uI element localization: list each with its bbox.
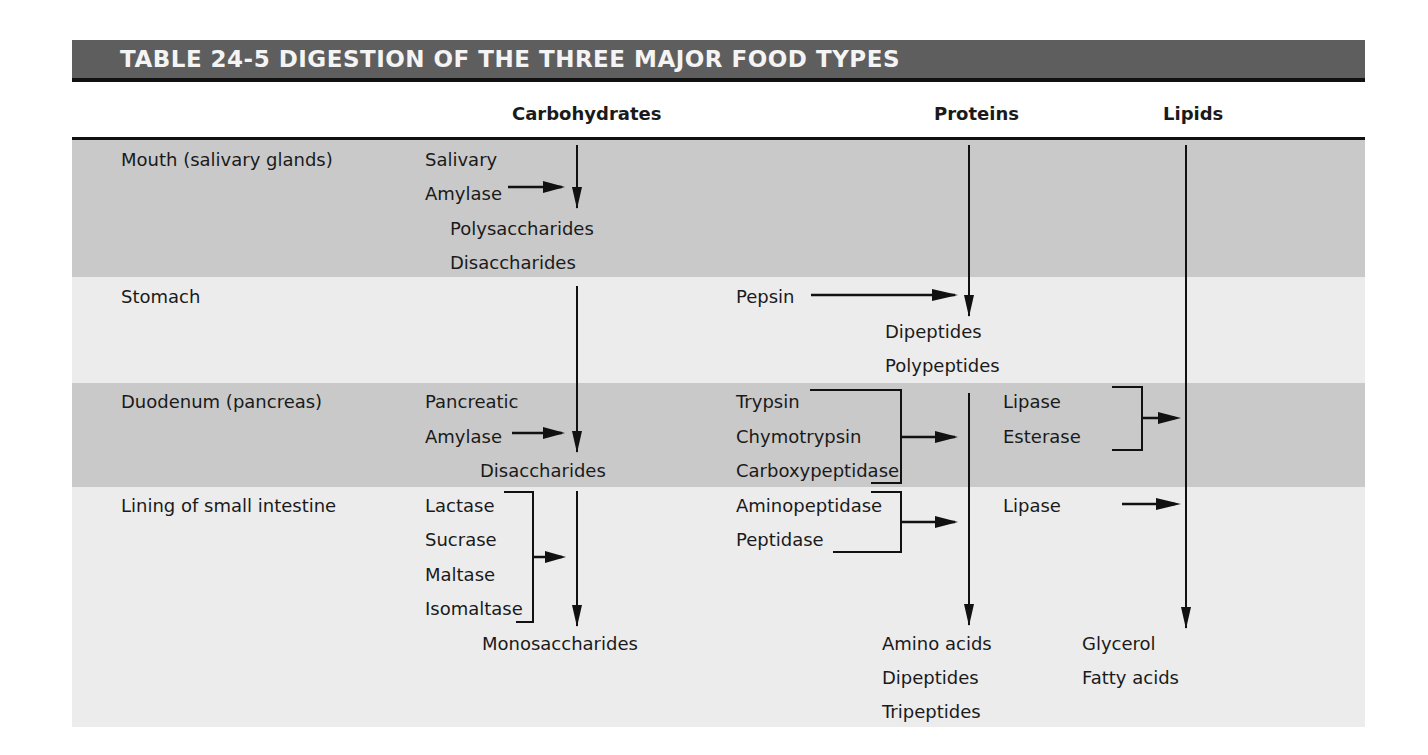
digestion-flow-arrows bbox=[0, 0, 1428, 755]
